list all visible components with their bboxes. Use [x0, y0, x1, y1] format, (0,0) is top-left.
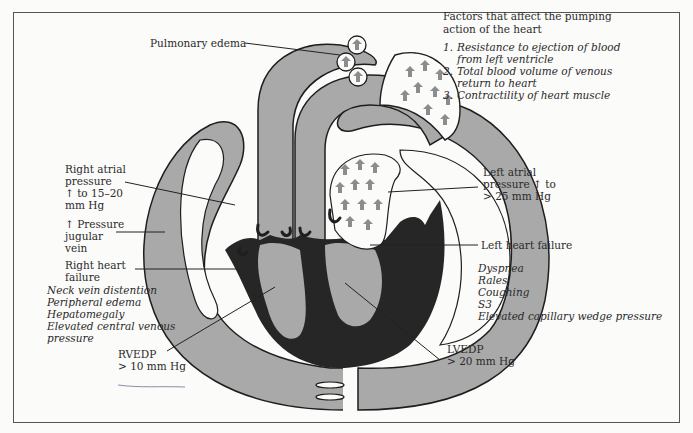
label-right-heart-failure: Right heart failure [65, 259, 126, 283]
label-pulmonary-edema: Pulmonary edema [150, 37, 246, 49]
label-left-heart-failure: Left heart failure [481, 239, 572, 251]
factor-item: 2. Total blood volume of venous return t… [443, 65, 620, 89]
label-pressure-jugular-vein: ↑ Pressure jugular vein [65, 218, 124, 254]
label-right-atrial-pressure: Right atrial pressure ↑ to 15–20 mm Hg [65, 163, 126, 211]
factors-heading: Factors that affect the pumping action o… [443, 10, 620, 35]
factors-list: 1. Resistance to ejection of blood from … [443, 41, 620, 101]
label-rvedp: RVEDP > 10 mm Hg [118, 348, 186, 372]
factor-item: 1. Resistance to ejection of blood from … [443, 41, 620, 65]
handwritten-underline [118, 385, 185, 387]
label-lvedp: LVEDP > 20 mm Hg [447, 343, 515, 367]
left-heart-failure-signs: Dyspnea Rales Coughing S3 Elevated capil… [478, 262, 662, 322]
factors-panel: Factors that affect the pumping action o… [443, 10, 620, 101]
label-left-atrial-pressure: Left atrial pressure ↑ to > 25 mm Hg [483, 166, 556, 202]
factor-item: 3. Contractility of heart muscle [443, 89, 620, 101]
right-heart-failure-signs: Neck vein distention Peripheral edema He… [47, 284, 175, 344]
